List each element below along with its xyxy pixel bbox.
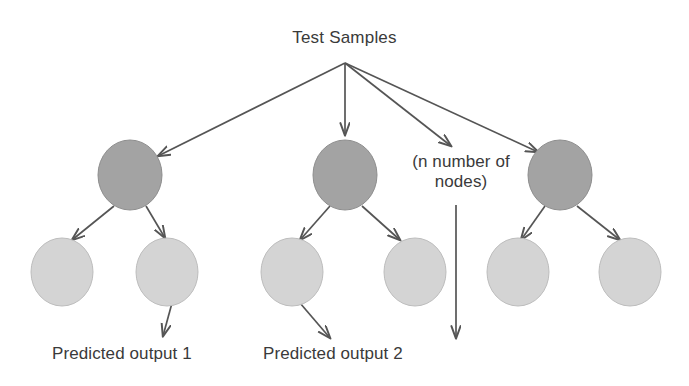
leaf-node-3[interactable]: [261, 238, 323, 306]
edge-node-1-to-leaf-1: [72, 206, 114, 240]
diagram-canvas: Test Samples (n number of nodes) Predict…: [0, 0, 689, 386]
edge-node-2-to-leaf-3: [300, 206, 330, 240]
internal-node-2[interactable]: [313, 140, 377, 210]
edge-node-3-to-leaf-6: [577, 206, 620, 240]
leaf-node-1[interactable]: [31, 238, 93, 306]
internal-node-3[interactable]: [528, 140, 592, 210]
diagram-graphics-layer: [0, 0, 689, 386]
predicted-output-1-label: Predicted output 1: [52, 344, 192, 364]
edge-leaf-3-to-output-2: [300, 303, 330, 338]
edge-node-1-to-leaf-2: [146, 206, 165, 238]
n-number-of-nodes-label: (n number of nodes): [388, 152, 534, 192]
predicted-output-2-label: Predicted output 2: [263, 344, 403, 364]
edge-node-2-to-leaf-4: [362, 206, 400, 240]
root-label: Test Samples: [0, 28, 689, 48]
leaf-node-2[interactable]: [136, 238, 198, 306]
edge-leaf-2-to-output-1: [163, 303, 172, 336]
leaf-node-5[interactable]: [487, 238, 549, 306]
edge-node-3-to-leaf-5: [521, 206, 545, 240]
internal-node-1[interactable]: [98, 140, 162, 210]
edge-root-to-node-1: [158, 63, 345, 156]
node-layer: [31, 140, 661, 306]
leaf-node-4[interactable]: [384, 238, 446, 306]
leaf-node-6[interactable]: [599, 238, 661, 306]
